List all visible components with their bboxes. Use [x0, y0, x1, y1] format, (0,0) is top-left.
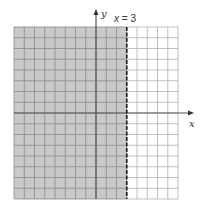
inequality-graph: y x x = 3 [0, 0, 207, 213]
y-axis-label: y [100, 8, 107, 19]
boundary-equation-label: x = 3 [113, 13, 136, 24]
boundary-value: = 3 [119, 13, 136, 24]
x-axis-label: x [189, 118, 195, 129]
